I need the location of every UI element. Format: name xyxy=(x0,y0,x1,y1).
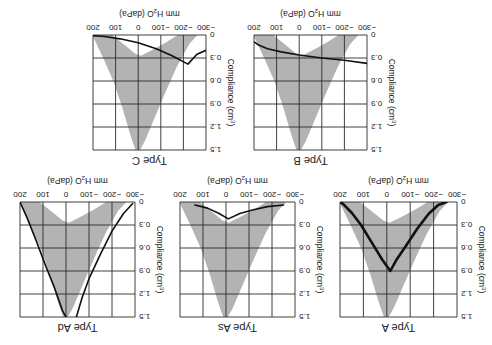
panel-title: Type A xyxy=(381,322,415,334)
normal-range-shade xyxy=(254,35,358,150)
x-tick-label: 200 xyxy=(86,23,100,32)
panel-type-b: −300−200−100010020000.30.60.91.21.5mm H2… xyxy=(247,8,397,167)
y-tick-label: 1.5 xyxy=(138,312,150,321)
y-tick-label: 1.2 xyxy=(138,289,150,298)
y-tick-label: 1.5 xyxy=(298,312,310,321)
panel-title: Type Ad xyxy=(58,322,98,334)
y-axis-title: Compliance (cm3) xyxy=(315,226,325,294)
x-tick-label: 0 xyxy=(384,190,389,199)
y-tick-label: 0.6 xyxy=(138,243,150,252)
y-tick-label: 1.2 xyxy=(298,289,310,298)
x-tick-label: 200 xyxy=(247,23,261,32)
y-tick-label: 0.9 xyxy=(370,99,382,108)
y-tick-label: 0.9 xyxy=(460,266,472,275)
panel-type-a: −300−200−100010020000.30.60.91.21.5mm H2… xyxy=(333,175,487,334)
x-tick-label: −100 xyxy=(151,23,170,32)
x-axis-title: mm H2O (daPa) xyxy=(368,175,429,186)
y-tick-label: 0.3 xyxy=(298,220,310,229)
x-tick-label: 100 xyxy=(108,23,122,32)
x-axis-title: mm H2O (daPa) xyxy=(47,175,108,186)
y-tick-label: 1.5 xyxy=(370,145,382,154)
y-axis-title: Compliance (cm3) xyxy=(387,59,397,127)
y-tick-label: 0.9 xyxy=(138,266,150,275)
normal-range-shade xyxy=(93,35,197,150)
x-axis-title: mm H2O (daPa) xyxy=(119,8,180,19)
y-tick-label: 0 xyxy=(298,197,303,206)
y-tick-label: 1.2 xyxy=(370,122,382,131)
panel-title: Type B xyxy=(293,155,327,167)
tympanogram-chart-svg: −300−200−100010020000.30.60.91.21.5mm H2… xyxy=(0,0,492,345)
x-tick-label: −200 xyxy=(262,190,281,199)
x-tick-label: 100 xyxy=(356,190,370,199)
x-tick-label: −200 xyxy=(174,23,193,32)
y-tick-label: 0 xyxy=(138,197,143,206)
x-tick-label: 100 xyxy=(36,190,50,199)
x-tick-label: −200 xyxy=(424,190,443,199)
x-tick-label: 200 xyxy=(13,190,27,199)
x-axis-title: mm H2O (daPa) xyxy=(207,175,268,186)
rotated-figure-group: −300−200−100010020000.30.60.91.21.5mm H2… xyxy=(13,8,487,334)
y-tick-label: 0 xyxy=(209,30,214,39)
x-tick-label: 100 xyxy=(269,23,283,32)
normal-range-shade xyxy=(20,202,126,317)
y-tick-label: 0.9 xyxy=(298,266,310,275)
x-tick-label: 200 xyxy=(173,190,187,199)
x-tick-label: 0 xyxy=(296,23,301,32)
panel-title: Type As xyxy=(217,322,257,334)
y-tick-label: 0.6 xyxy=(460,243,472,252)
x-tick-label: −100 xyxy=(401,190,420,199)
x-axis-title: mm H2O (daPa) xyxy=(280,8,341,19)
x-tick-label: 0 xyxy=(223,190,228,199)
x-tick-label: 100 xyxy=(196,190,210,199)
y-tick-label: 0.3 xyxy=(209,53,221,62)
panel-type-ad: −300−200−100010020000.30.60.91.21.5mm H2… xyxy=(13,175,165,334)
y-tick-label: 1.5 xyxy=(460,312,472,321)
panel-title: Type C xyxy=(132,155,167,167)
y-tick-label: 1.2 xyxy=(209,122,221,131)
y-tick-label: 1.5 xyxy=(209,145,221,154)
x-tick-label: 200 xyxy=(333,190,347,199)
y-axis-title: Compliance (cm3) xyxy=(155,226,165,294)
y-tick-label: 0.3 xyxy=(138,220,150,229)
y-tick-label: 0 xyxy=(370,30,375,39)
tympanogram-figure: −300−200−100010020000.30.60.91.21.5mm H2… xyxy=(0,0,492,345)
x-tick-label: 0 xyxy=(135,23,140,32)
y-tick-label: 0.6 xyxy=(298,243,310,252)
x-tick-label: −100 xyxy=(239,190,258,199)
y-tick-label: 0.3 xyxy=(370,53,382,62)
x-tick-label: 0 xyxy=(63,190,68,199)
y-tick-label: 1.2 xyxy=(460,289,472,298)
y-tick-label: 0.9 xyxy=(209,99,221,108)
y-tick-label: 0.6 xyxy=(370,76,382,85)
x-tick-label: −100 xyxy=(312,23,331,32)
y-tick-label: 0.3 xyxy=(460,220,472,229)
y-axis-title: Compliance (cm3) xyxy=(226,59,236,127)
normal-range-shade xyxy=(180,202,286,317)
panel-type-as: −300−200−100010020000.30.60.91.21.5mm H2… xyxy=(173,175,325,334)
panel-type-c: −300−200−100010020000.30.60.91.21.5mm H2… xyxy=(86,8,236,167)
y-tick-label: 0.6 xyxy=(209,76,221,85)
x-tick-label: −100 xyxy=(79,190,98,199)
y-axis-title: Compliance (cm3) xyxy=(477,226,487,294)
y-tick-label: 0 xyxy=(460,197,465,206)
x-tick-label: −200 xyxy=(335,23,354,32)
x-tick-label: −200 xyxy=(102,190,121,199)
